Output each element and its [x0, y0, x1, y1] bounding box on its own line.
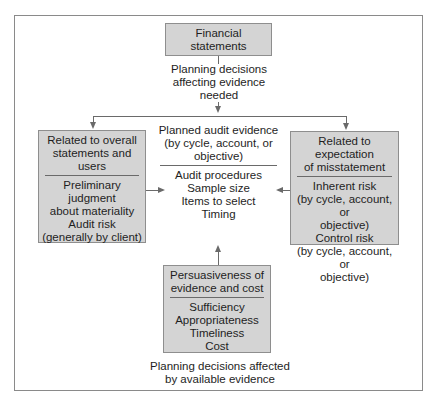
bottom-caption: Planning decisions affected by available… — [140, 360, 300, 386]
arrow-down-icon — [343, 123, 349, 130]
expectation-of-misstatement-box: Related to expectation of misstatement I… — [290, 131, 399, 245]
branch-line — [93, 116, 347, 117]
arrow-right-icon — [158, 187, 165, 193]
arrow-up-icon — [215, 245, 221, 252]
planned-audit-evidence: Planned audit evidence (by cycle, accoun… — [152, 124, 285, 221]
divider — [160, 165, 277, 166]
connector-line — [282, 190, 290, 191]
arrow-down-icon — [90, 122, 96, 129]
top-box-line: statements — [166, 40, 271, 53]
top-caption: Planning decisions affecting evidence ne… — [160, 63, 278, 102]
financial-statements-box: Financial statements — [165, 23, 272, 56]
top-box-line: Financial — [166, 27, 271, 40]
arrow-down-icon — [215, 106, 221, 113]
overall-statements-box: Related to overall statements and users … — [38, 130, 146, 243]
persuasiveness-box: Persuasiveness of evidence and cost Suff… — [163, 265, 271, 353]
arrow-left-icon — [276, 187, 283, 193]
connector-line — [218, 250, 219, 265]
